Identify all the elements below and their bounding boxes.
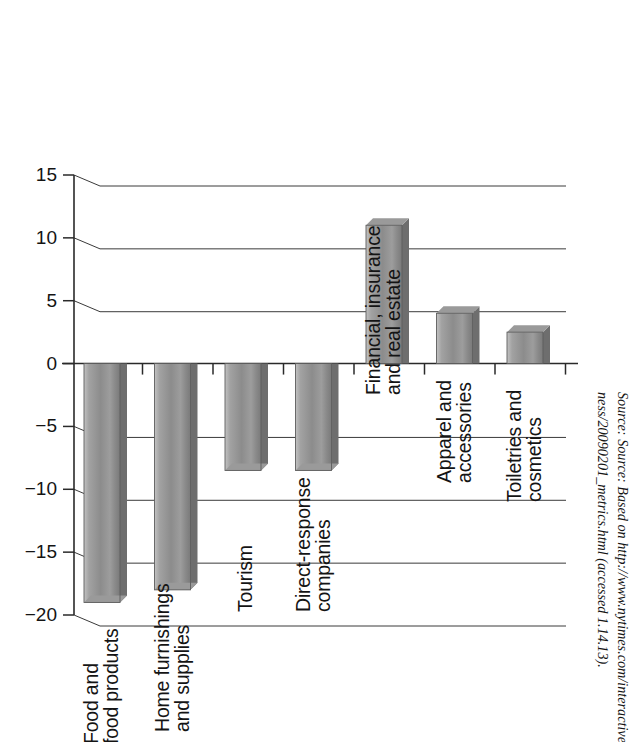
category-label-line-1: Toiletries and xyxy=(503,390,525,502)
y-tick-label: 10 xyxy=(36,227,57,248)
bar xyxy=(155,364,198,590)
bar xyxy=(437,306,480,363)
category-label-4: Financial, insuranceand real estate xyxy=(363,226,404,395)
bar-bottom-face xyxy=(296,463,339,470)
bar-chart-figure: 151050−5−10−15−20 Food andfood productsH… xyxy=(0,0,643,742)
bar-front-face xyxy=(155,364,191,590)
category-label-line-1: Apparel and xyxy=(433,380,455,483)
y-tick-label: −15 xyxy=(25,541,57,562)
category-label-line-2: accessories xyxy=(454,380,474,483)
source-note-line-1: Source: Source: Based on http://www.nyti… xyxy=(613,392,633,742)
bar-side-face xyxy=(120,364,127,603)
category-label-line-1: Financial, insurance xyxy=(362,226,384,395)
category-label-line-2: cosmetics xyxy=(524,390,544,502)
category-label-2: Tourism xyxy=(235,546,255,613)
bar-front-face xyxy=(296,364,332,471)
y-tick-label: −10 xyxy=(25,478,57,499)
source-note: Source: Source: Based on http://www.nyti… xyxy=(593,392,633,742)
bar xyxy=(84,364,127,603)
y-tick-label: −20 xyxy=(25,604,57,625)
category-label-3: Direct-responsecompanies xyxy=(293,478,334,613)
bar-side-face xyxy=(473,306,480,363)
gridline xyxy=(74,301,566,312)
bar xyxy=(296,364,339,471)
category-label-line-1: Food and xyxy=(80,664,102,742)
category-label-6: Toiletries andcosmetics xyxy=(504,390,545,502)
y-tick-label: −5 xyxy=(35,415,57,436)
category-label-line-1: Direct-response xyxy=(292,478,314,613)
bar-side-face xyxy=(332,364,339,471)
bar-front-face xyxy=(225,364,261,471)
bar xyxy=(225,364,268,471)
bar-top-face xyxy=(507,325,550,332)
bar xyxy=(507,325,550,363)
category-label-5: Apparel andaccessories xyxy=(434,380,475,483)
bar-side-face xyxy=(261,364,268,471)
category-label-1: Home furnishingsand supplies xyxy=(152,583,193,732)
bar-front-face xyxy=(507,332,543,363)
category-label-line-1: Tourism xyxy=(234,546,256,613)
category-label-line-2: companies xyxy=(313,478,333,613)
gridline xyxy=(74,238,566,249)
category-label-line-2: and real estate xyxy=(383,226,403,395)
source-note-line-2: ness/20090201_metrics.html (accessed 1.1… xyxy=(593,392,613,742)
bar-top-face xyxy=(437,306,480,313)
bar-front-face xyxy=(84,364,120,603)
y-tick-label: 5 xyxy=(46,290,57,311)
bar-bottom-face xyxy=(225,463,268,470)
category-label-0: Food andfood products xyxy=(81,629,122,742)
bar-top-face xyxy=(366,218,409,225)
category-label-line-2: food products xyxy=(101,629,121,742)
category-label-line-1: Home furnishings xyxy=(151,583,173,732)
gridline xyxy=(74,615,566,626)
y-tick-label: 15 xyxy=(36,164,57,185)
ytick-label-group: 151050−5−10−15−20 xyxy=(25,164,57,625)
bar-front-face xyxy=(437,313,473,363)
y-tick-label: 0 xyxy=(46,353,57,374)
bar-side-face xyxy=(191,364,198,590)
bar-bottom-face xyxy=(84,595,127,602)
gridline xyxy=(74,175,566,186)
category-label-line-2: and supplies xyxy=(172,583,192,732)
